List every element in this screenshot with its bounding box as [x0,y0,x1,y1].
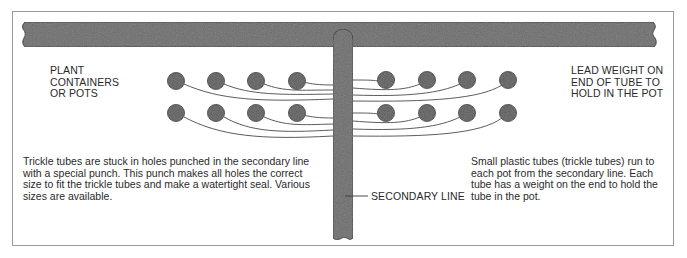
secondary-line-label: SECONDARY LINE [371,191,465,203]
pot-icon [248,73,265,90]
caption-trickle-tubes-punch: Trickle tubes are stuck in holes punched… [23,156,313,202]
plant-containers-label: PLANT CONTAINERS OR POTS [50,65,119,100]
pot-icon [419,105,436,122]
pot-icon [289,73,306,90]
pot-icon [168,105,185,122]
pot-icon [378,72,395,89]
pot-icon [289,105,306,122]
caption-small-plastic-tubes: Small plastic tubes (trickle tubes) run … [471,156,671,202]
pot-icon [378,105,395,122]
pot-icon [500,105,517,122]
pot-icon [459,72,476,89]
pot-icon [248,105,265,122]
pot-icon [208,105,225,122]
irrigation-diagram [0,0,687,258]
pot-icon [459,105,476,122]
pot-icon [168,73,185,90]
lead-weight-label: LEAD WEIGHT ON END OF TUBE TO HOLD IN TH… [571,65,663,100]
pot-icon [208,73,225,90]
pot-icon [419,72,436,89]
secondary-line-pipe [333,29,353,240]
pot-icon [500,72,517,89]
